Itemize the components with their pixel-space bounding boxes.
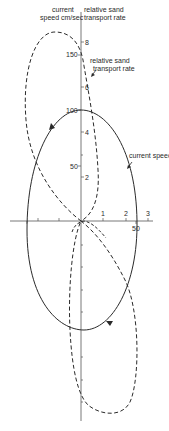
xtick-label-3: 3 (146, 210, 150, 217)
left-axis-title-line2: speed cm/sec (40, 14, 83, 21)
arrow-icon-top-left (49, 123, 55, 130)
xtick-label-50: 50 (132, 225, 140, 232)
tick-label-6: 6 (85, 84, 89, 91)
tick-label-150: 150 (66, 51, 78, 58)
tick-label-100: 100 (66, 107, 78, 114)
tick-label-4: 4 (85, 129, 89, 136)
tick-label-50: 50 (70, 163, 78, 170)
right-axis-title-line2: transport rate (84, 14, 126, 21)
speed-annotation: current speed (129, 152, 169, 159)
tick-label-8: 8 (85, 39, 89, 46)
xtick-label-1: 1 (101, 210, 105, 217)
xtick-label-2: 2 (124, 210, 128, 217)
current-speed-curve (27, 110, 137, 330)
transport-rate-curve-lower (69, 221, 136, 413)
right-axis-title-line1: relative sand (84, 6, 124, 13)
arrow-icon-bottom-right (106, 321, 113, 326)
transport-rate-crossing (72, 221, 106, 238)
transport-rate-curve-upper (25, 32, 98, 221)
tick-label-2: 2 (85, 174, 89, 181)
left-axis-title-line1: current (52, 6, 74, 13)
hodograph-chart (0, 0, 169, 431)
transport-annotation-line2: transport rate (93, 65, 135, 72)
transport-annotation-line1: relative sand (90, 57, 130, 64)
